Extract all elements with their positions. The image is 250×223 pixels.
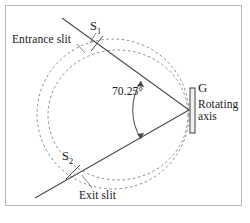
figure-root: Entrance slit Exit slit S1 S2 70.25° G R… xyxy=(0,0,250,223)
angle-value-label: 70.25° xyxy=(112,85,143,97)
entrance-slit-label: Entrance slit xyxy=(12,33,71,45)
grating-plate xyxy=(190,88,195,133)
grating-label: G xyxy=(198,81,208,95)
entrance-slit-leader-line xyxy=(77,44,85,53)
s1-label: S1 xyxy=(90,20,101,36)
s2-label-subscript: 2 xyxy=(69,157,73,166)
s1-label-text: S xyxy=(90,19,97,33)
exit-slit-leader-line xyxy=(82,175,92,188)
exit-slit-label: Exit slit xyxy=(79,189,116,201)
outer-dashed-circle xyxy=(37,39,189,189)
rotating-axis-line-2: axis xyxy=(198,110,238,122)
rotating-axis-line-1: Rotating xyxy=(198,98,238,110)
rotating-axis-label: Rotating axis xyxy=(198,98,238,122)
exit-beam-line xyxy=(35,110,189,198)
s2-label-text: S xyxy=(62,149,69,163)
s2-label: S2 xyxy=(62,150,73,166)
s1-label-subscript: 1 xyxy=(97,27,101,36)
